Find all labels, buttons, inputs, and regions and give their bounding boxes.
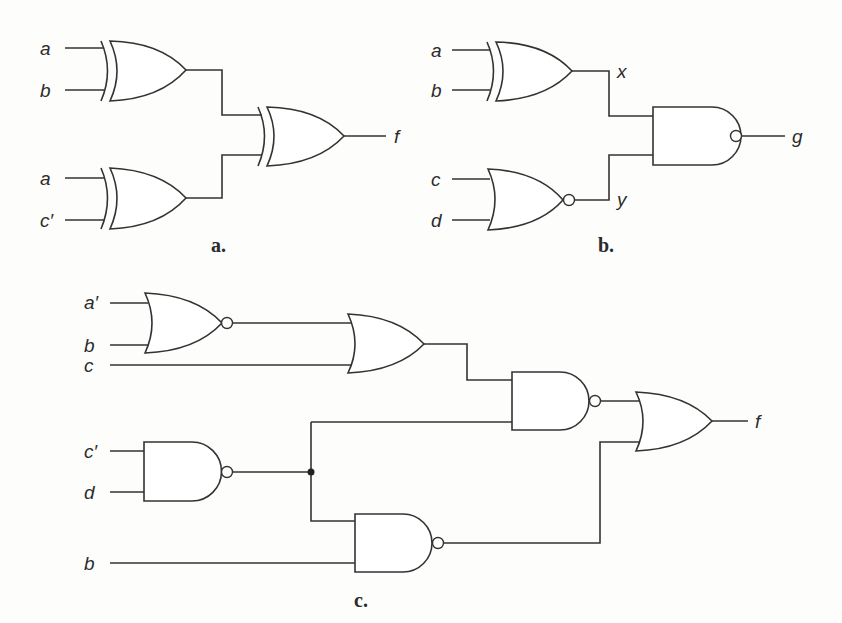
wire-c5-c6	[444, 442, 640, 543]
circuit-a: a b a c′ f a.	[40, 38, 401, 256]
output-label-f: f	[755, 411, 762, 432]
circuit-c: a′ b c c′ d b f c.	[84, 292, 762, 611]
input-wires-b-top	[452, 50, 490, 90]
inversion-bubble	[433, 538, 444, 549]
junction-dot	[308, 469, 315, 476]
wire-a1-a3	[186, 70, 262, 115]
output-label-g: g	[792, 126, 803, 147]
nand-gate-c4	[512, 372, 601, 430]
nand-gate-b3	[653, 107, 742, 165]
wire-c2-c4	[424, 344, 512, 380]
input-wires-b-bottom	[452, 179, 490, 220]
wire-junction-branches	[311, 422, 355, 521]
nor-gate-b2	[488, 169, 575, 230]
wire-a2-a3	[186, 155, 262, 198]
input-label-a-prime: a′	[84, 292, 100, 313]
input-label-d: d	[84, 482, 96, 503]
xor-gate-a2	[101, 168, 186, 229]
input-label-a: a	[431, 40, 442, 61]
input-label-d: d	[431, 210, 443, 231]
input-label-b: b	[431, 80, 442, 101]
circuit-b: a b c d x y g b.	[431, 40, 803, 256]
logic-circuits-figure: a b a c′ f a. a b c d x y g b.	[0, 0, 842, 623]
nor-gate-c1	[145, 293, 233, 353]
input-label-b: b	[84, 553, 95, 574]
intermediate-label-y: y	[615, 189, 628, 210]
input-label-b: b	[40, 80, 51, 101]
caption-b: b.	[598, 234, 614, 256]
inversion-bubble	[731, 131, 742, 142]
input-label-a: a	[40, 38, 51, 59]
caption-a: a.	[211, 234, 226, 256]
xor-gate-a1	[101, 41, 186, 101]
or-gate-c2	[348, 314, 424, 373]
wire-y	[575, 155, 653, 200]
xor-gate-a3	[258, 107, 344, 166]
or-gate-c6	[636, 392, 712, 451]
xor-gate-b1	[487, 42, 572, 101]
input-wires-a	[65, 48, 104, 220]
input-wires-c3	[110, 451, 144, 492]
input-label-b: b	[84, 335, 95, 356]
input-label-a: a	[40, 168, 51, 189]
input-wires-c1	[110, 303, 148, 345]
nand-gate-c5	[355, 514, 444, 572]
inversion-bubble	[564, 195, 575, 206]
intermediate-label-x: x	[616, 61, 628, 82]
nand-gate-c3	[144, 442, 233, 501]
inversion-bubble	[590, 396, 601, 407]
inversion-bubble	[222, 318, 233, 329]
input-label-c-prime: c′	[84, 441, 99, 462]
caption-c: c.	[354, 589, 368, 611]
inversion-bubble	[222, 467, 233, 478]
wire-x	[572, 71, 653, 116]
input-label-c: c	[84, 355, 94, 376]
input-label-c-prime: c′	[40, 210, 55, 231]
output-label-f: f	[394, 126, 401, 147]
input-label-c: c	[431, 169, 441, 190]
